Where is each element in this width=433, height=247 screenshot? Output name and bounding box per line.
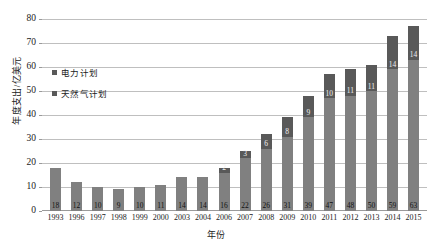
bar-column[interactable]: 831 — [277, 19, 298, 211]
bar-segment-electricity[interactable]: 11 — [345, 69, 356, 95]
x-axis-tick-label: 1997 — [87, 213, 108, 222]
y-axis-tick-label: 80 — [10, 13, 36, 23]
square-marker-icon — [52, 91, 57, 96]
x-axis-tick-label: 2010 — [298, 213, 319, 222]
bar-column[interactable]: 10 — [129, 19, 150, 211]
bar-stack[interactable]: 11 — [155, 185, 166, 211]
bar-value-label: 14 — [178, 202, 186, 210]
bar-stack[interactable]: 322 — [240, 151, 251, 211]
legend-item[interactable]: 电力计划 — [52, 66, 108, 78]
bar-value-label: 59 — [389, 202, 397, 210]
x-axis-tick-label: 2009 — [277, 213, 298, 222]
bar-segment-electricity[interactable]: 14 — [408, 26, 419, 60]
x-axis-tick-label: 2003 — [171, 213, 192, 222]
chart-legend: 电力计划天然气计划 — [52, 66, 108, 108]
bar-column[interactable]: 216 — [214, 19, 235, 211]
bar-segment-natural-gas[interactable]: 14 — [197, 177, 208, 211]
y-axis-tick-label: 50 — [10, 85, 36, 95]
bar-segment-natural-gas[interactable]: 18 — [50, 168, 61, 211]
bar-value-label: 31 — [283, 202, 291, 210]
bar-value-label: 8 — [285, 128, 289, 136]
legend-item-label: 电力计划 — [61, 66, 98, 78]
bar-value-label: 10 — [136, 202, 144, 210]
bar-value-label: 26 — [262, 202, 270, 210]
bar-stack[interactable]: 1463 — [408, 26, 419, 211]
bar-segment-natural-gas[interactable]: 63 — [408, 60, 419, 211]
bar-stack[interactable]: 939 — [303, 96, 314, 211]
x-axis-tick-label: 2013 — [361, 213, 382, 222]
bar-segment-natural-gas[interactable]: 11 — [155, 185, 166, 211]
bar-segment-natural-gas[interactable]: 10 — [134, 187, 145, 211]
bar-column[interactable]: 10 — [87, 19, 108, 211]
bar-segment-natural-gas[interactable]: 9 — [113, 189, 124, 211]
y-axis-tick-label: 10 — [10, 181, 36, 191]
bar-column[interactable]: 939 — [298, 19, 319, 211]
bar-value-label: 11 — [347, 87, 354, 95]
bar-segment-electricity[interactable]: 6 — [261, 134, 272, 148]
bar-segment-natural-gas[interactable]: 12 — [71, 182, 82, 211]
plot-area: 1812109101114142163226268319391047114811… — [42, 19, 427, 211]
bar-segment-natural-gas[interactable]: 47 — [324, 98, 335, 211]
bar-column[interactable]: 1150 — [361, 19, 382, 211]
bar-column[interactable]: 1459 — [382, 19, 403, 211]
bar-segment-natural-gas[interactable]: 14 — [176, 177, 187, 211]
stacked-bar-chart: 年度支出/亿美元 01020304050607080 1812109101114… — [0, 0, 433, 247]
bar-segment-electricity[interactable]: 11 — [366, 65, 377, 91]
bar-stack[interactable]: 10 — [134, 187, 145, 211]
bar-segment-natural-gas[interactable]: 39 — [303, 117, 314, 211]
bar-stack[interactable]: 1459 — [387, 36, 398, 211]
bar-stack[interactable]: 12 — [71, 182, 82, 211]
bar-segment-electricity[interactable]: 14 — [387, 36, 398, 70]
bar-segment-natural-gas[interactable]: 50 — [366, 91, 377, 211]
bar-stack[interactable]: 10 — [92, 187, 103, 211]
x-axis-tick-label: 2006 — [214, 213, 235, 222]
bar-value-label: 39 — [305, 202, 313, 210]
bar-column[interactable]: 18 — [45, 19, 66, 211]
bar-column[interactable]: 626 — [256, 19, 277, 211]
legend-item-label: 天然气计划 — [61, 87, 108, 99]
bar-column[interactable]: 322 — [235, 19, 256, 211]
bar-column[interactable]: 12 — [66, 19, 87, 211]
bar-segment-electricity[interactable]: 10 — [324, 74, 335, 98]
bar-value-label: 50 — [368, 202, 376, 210]
bar-column[interactable]: 14 — [192, 19, 213, 211]
bar-segment-natural-gas[interactable]: 59 — [387, 69, 398, 211]
x-axis-tick-label: 2000 — [150, 213, 171, 222]
bar-column[interactable]: 1047 — [319, 19, 340, 211]
x-axis-tick-labels: 1993199619971998199920002003200420062007… — [42, 213, 427, 222]
legend-item[interactable]: 天然气计划 — [52, 87, 108, 99]
bar-column[interactable]: 9 — [108, 19, 129, 211]
bar-segment-natural-gas[interactable]: 26 — [261, 149, 272, 211]
bar-stack[interactable]: 18 — [50, 168, 61, 211]
bar-segment-natural-gas[interactable]: 31 — [282, 137, 293, 211]
bar-value-label: 18 — [52, 202, 60, 210]
bar-segment-natural-gas[interactable]: 16 — [219, 173, 230, 211]
bar-stack[interactable]: 14 — [197, 177, 208, 211]
y-axis-tick-label: 0 — [10, 205, 36, 215]
bar-segment-natural-gas[interactable]: 22 — [240, 158, 251, 211]
bar-segment-electricity[interactable]: 9 — [303, 96, 314, 118]
bar-column[interactable]: 11 — [150, 19, 171, 211]
bar-stack[interactable]: 14 — [176, 177, 187, 211]
bar-stack[interactable]: 1047 — [324, 74, 335, 211]
bar-segment-electricity[interactable]: 3 — [240, 151, 251, 158]
bar-column[interactable]: 14 — [171, 19, 192, 211]
bar-segment-electricity[interactable]: 8 — [282, 117, 293, 136]
bar-value-label: 11 — [368, 83, 375, 91]
bar-value-label: 14 — [410, 51, 418, 59]
bar-stack[interactable]: 831 — [282, 117, 293, 211]
bar-stack[interactable]: 1150 — [366, 65, 377, 211]
bar-stack[interactable]: 1148 — [345, 69, 356, 211]
bar-value-label: 16 — [220, 202, 228, 210]
bar-value-label: 11 — [157, 202, 164, 210]
x-axis-tick-label: 1998 — [108, 213, 129, 222]
bar-segment-natural-gas[interactable]: 48 — [345, 96, 356, 211]
bar-stack[interactable]: 626 — [261, 134, 272, 211]
bar-stack[interactable]: 9 — [113, 189, 124, 211]
x-axis-tick-label: 2007 — [235, 213, 256, 222]
bar-column[interactable]: 1463 — [403, 19, 424, 211]
bar-stack[interactable]: 216 — [219, 168, 230, 211]
bar-segment-natural-gas[interactable]: 10 — [92, 187, 103, 211]
x-axis-title: 年份 — [0, 228, 433, 241]
bar-column[interactable]: 1148 — [340, 19, 361, 211]
